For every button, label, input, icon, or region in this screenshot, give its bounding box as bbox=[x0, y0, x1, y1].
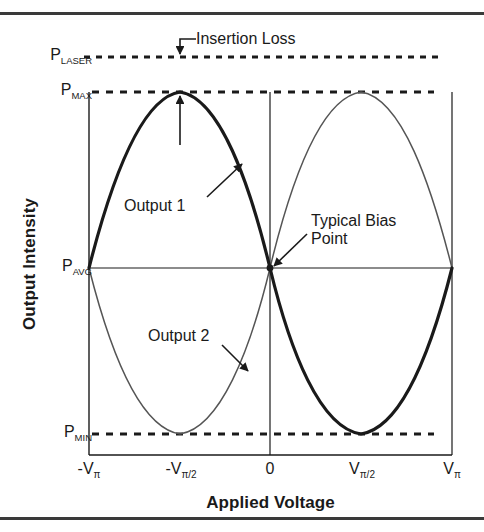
x-tick-zero: 0 bbox=[240, 460, 300, 480]
top-divider-rule bbox=[0, 12, 484, 15]
annotation-output-1: Output 1 bbox=[124, 197, 185, 215]
insertion-loss-leader bbox=[180, 39, 196, 54]
typical-bias-point-leader bbox=[274, 234, 307, 266]
y-tick-p-max-sub: MAX bbox=[71, 90, 92, 101]
x-tick-v-pi-base: V bbox=[443, 460, 454, 477]
annotation-typical-bias-line2: Point bbox=[311, 230, 396, 248]
y-tick-p-laser: PLASER bbox=[30, 46, 92, 66]
annotation-typical-bias-line1: Typical Bias bbox=[311, 212, 396, 230]
output-2-leader bbox=[222, 345, 248, 371]
annotation-typical-bias-point: Typical Bias Point bbox=[311, 212, 396, 249]
transfer-function-figure: PLASER PMAX PAVG PMIN -Vπ -Vπ/2 0 Vπ/2 V… bbox=[0, 16, 484, 516]
x-tick-v-pi-half-base: V bbox=[349, 460, 360, 477]
x-tick-v-pi: Vπ bbox=[424, 460, 480, 480]
y-tick-p-min-base: P bbox=[64, 423, 75, 440]
y-tick-p-laser-base: P bbox=[50, 46, 61, 63]
bottom-divider-rule bbox=[0, 517, 484, 520]
y-tick-p-laser-sub: LASER bbox=[61, 55, 92, 66]
y-tick-p-max-base: P bbox=[61, 81, 72, 98]
x-tick-minus-v-pi-base: -V bbox=[78, 460, 94, 477]
x-tick-zero-base: 0 bbox=[266, 460, 275, 477]
y-tick-p-avg-sub: AVG bbox=[73, 266, 92, 277]
x-tick-minus-v-pi-half-sub: π/2 bbox=[181, 469, 196, 480]
x-tick-v-pi-sub: π bbox=[454, 469, 461, 480]
y-tick-p-avg-base: P bbox=[62, 257, 73, 274]
output-1-leader bbox=[207, 164, 242, 197]
x-tick-minus-v-pi: -Vπ bbox=[59, 460, 119, 480]
y-tick-p-min-sub: MIN bbox=[75, 432, 92, 443]
x-tick-minus-v-pi-sub: π bbox=[94, 469, 101, 480]
y-tick-p-min: PMIN bbox=[30, 423, 92, 443]
y-tick-p-max: PMAX bbox=[30, 81, 92, 101]
bias-point-marker bbox=[267, 265, 274, 272]
x-tick-v-pi-half: Vπ/2 bbox=[331, 460, 393, 480]
x-axis-title: Applied Voltage bbox=[89, 493, 452, 513]
x-tick-minus-v-pi-half: -Vπ/2 bbox=[148, 460, 214, 480]
annotation-output-2: Output 2 bbox=[148, 327, 209, 345]
y-axis-title: Output Intensity bbox=[20, 154, 40, 374]
x-tick-v-pi-half-sub: π/2 bbox=[360, 469, 375, 480]
annotation-insertion-loss: Insertion Loss bbox=[196, 30, 296, 48]
x-tick-minus-v-pi-half-base: -V bbox=[165, 460, 181, 477]
